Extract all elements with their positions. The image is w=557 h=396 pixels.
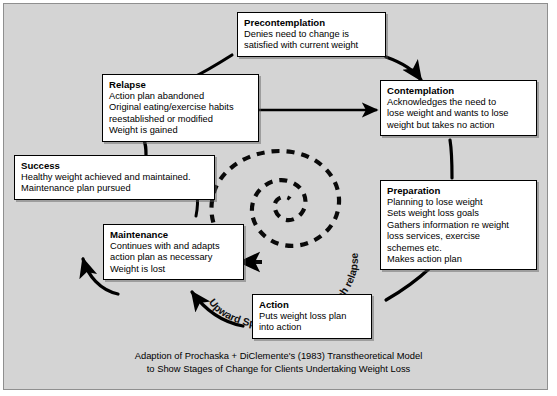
stage-box-precontemplation[interactable]: Precontemplation Denies need to change i… [237,12,386,57]
stage-title-precontemplation: Precontemplation [244,17,380,28]
stage-line: Sets weight loss goals [387,208,531,219]
stage-box-preparation[interactable]: Preparation Planning to lose weight Sets… [380,180,537,270]
stage-line: Continues with and adapts [110,241,238,252]
stage-title-maintenance: Maintenance [110,229,238,240]
stage-line: Original eating/exercise habits [109,102,253,113]
caption-line-2: to Show Stages of Change for Clients Und… [0,362,557,375]
stage-line: Gathers information re weight [387,220,531,231]
stage-title-success: Success [21,160,209,171]
stage-line: loss services, exercise [387,231,531,242]
stage-box-maintenance[interactable]: Maintenance Continues with and adapts ac… [103,224,244,280]
diagram-canvas: Upward Spiral - Learn from each relapse … [0,0,557,396]
stage-line: Makes action plan [387,254,531,265]
stage-line: Weight is lost [110,264,238,275]
stage-line: Acknowledges the need to [387,97,531,108]
stage-line: Maintenance plan pursued [21,183,209,194]
stage-line: Denies need to change is [244,29,380,40]
stage-title-preparation: Preparation [387,185,531,196]
stage-line: Action plan abandoned [109,91,253,102]
stage-line: action plan as necessary [110,252,238,263]
figure-caption: Adaption of Prochaska + DiClemente's (19… [0,349,557,375]
stage-line: satisfied with current weight [244,40,380,51]
stage-line: Planning to lose weight [387,197,531,208]
stage-line: into action [259,322,366,333]
stage-box-action[interactable]: Action Puts weight loss plan into action [252,294,372,339]
stage-line: reestablished or modified [109,114,253,125]
stage-line: Healthy weight achieved and maintained. [21,172,209,183]
stage-line: schemes etc. [387,243,531,254]
stage-box-success[interactable]: Success Healthy weight achieved and main… [14,155,215,200]
stage-title-contemplation: Contemplation [387,85,531,96]
stage-title-action: Action [259,299,366,310]
stage-title-relapse: Relapse [109,79,253,90]
stage-line: lose weight and wants to lose [387,108,531,119]
stage-line: Puts weight loss plan [259,311,366,322]
stage-box-relapse[interactable]: Relapse Action plan abandoned Original e… [102,74,259,142]
stage-box-contemplation[interactable]: Contemplation Acknowledges the need to l… [380,80,537,136]
caption-line-1: Adaption of Prochaska + DiClemente's (19… [0,349,557,362]
stage-line: Weight is gained [109,125,253,136]
stage-line: weight but takes no action [387,120,531,131]
